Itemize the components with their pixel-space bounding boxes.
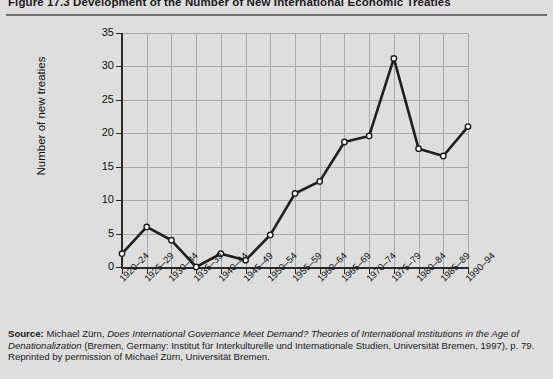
x-axis-tick — [344, 269, 345, 274]
x-axis-tick — [196, 269, 197, 274]
x-axis-tick-labels: 1920–241925–291930–341935–391940–441945–… — [0, 274, 553, 332]
data-point-marker — [144, 224, 149, 229]
data-point-marker — [465, 124, 470, 129]
data-point-marker — [292, 191, 297, 196]
x-axis-tick — [419, 269, 420, 274]
source-publication: (Bremen, Germany: Institut für Interkult… — [8, 340, 534, 363]
figure-header: Figure 17.3 Development of the Number of… — [0, 0, 553, 14]
source-note: Source: Michael Zürn, Does International… — [8, 328, 542, 363]
x-axis-tick — [171, 269, 172, 274]
x-axis-tick — [295, 269, 296, 274]
data-point-marker — [391, 56, 396, 61]
data-point-marker — [366, 133, 371, 138]
data-point-marker — [317, 179, 322, 184]
x-axis-tick — [221, 269, 222, 274]
x-axis-tick — [246, 269, 247, 274]
source-author: Michael Zürn, — [46, 328, 107, 339]
chart-container: 05101520253035 Number of new treaties 19… — [0, 18, 553, 318]
x-axis-tick — [320, 269, 321, 274]
x-axis-tick — [443, 269, 444, 274]
data-point-marker — [441, 153, 446, 158]
source-label: Source: — [8, 328, 44, 339]
source-text: Michael Zürn, Does International Governa… — [8, 328, 534, 362]
x-axis-tick — [468, 269, 469, 274]
x-axis-tick — [270, 269, 271, 274]
data-point-marker — [342, 139, 347, 144]
data-point-marker — [268, 232, 273, 237]
data-point-marker — [119, 251, 124, 256]
x-axis-tick — [369, 269, 370, 274]
x-axis-tick — [147, 269, 148, 274]
x-axis-tick — [122, 269, 123, 274]
data-point-marker — [169, 238, 174, 243]
page-title: Figure 17.3 Development of the Number of… — [8, 0, 451, 8]
data-point-marker — [416, 146, 421, 151]
x-axis-tick — [394, 269, 395, 274]
header-divider — [6, 14, 547, 16]
